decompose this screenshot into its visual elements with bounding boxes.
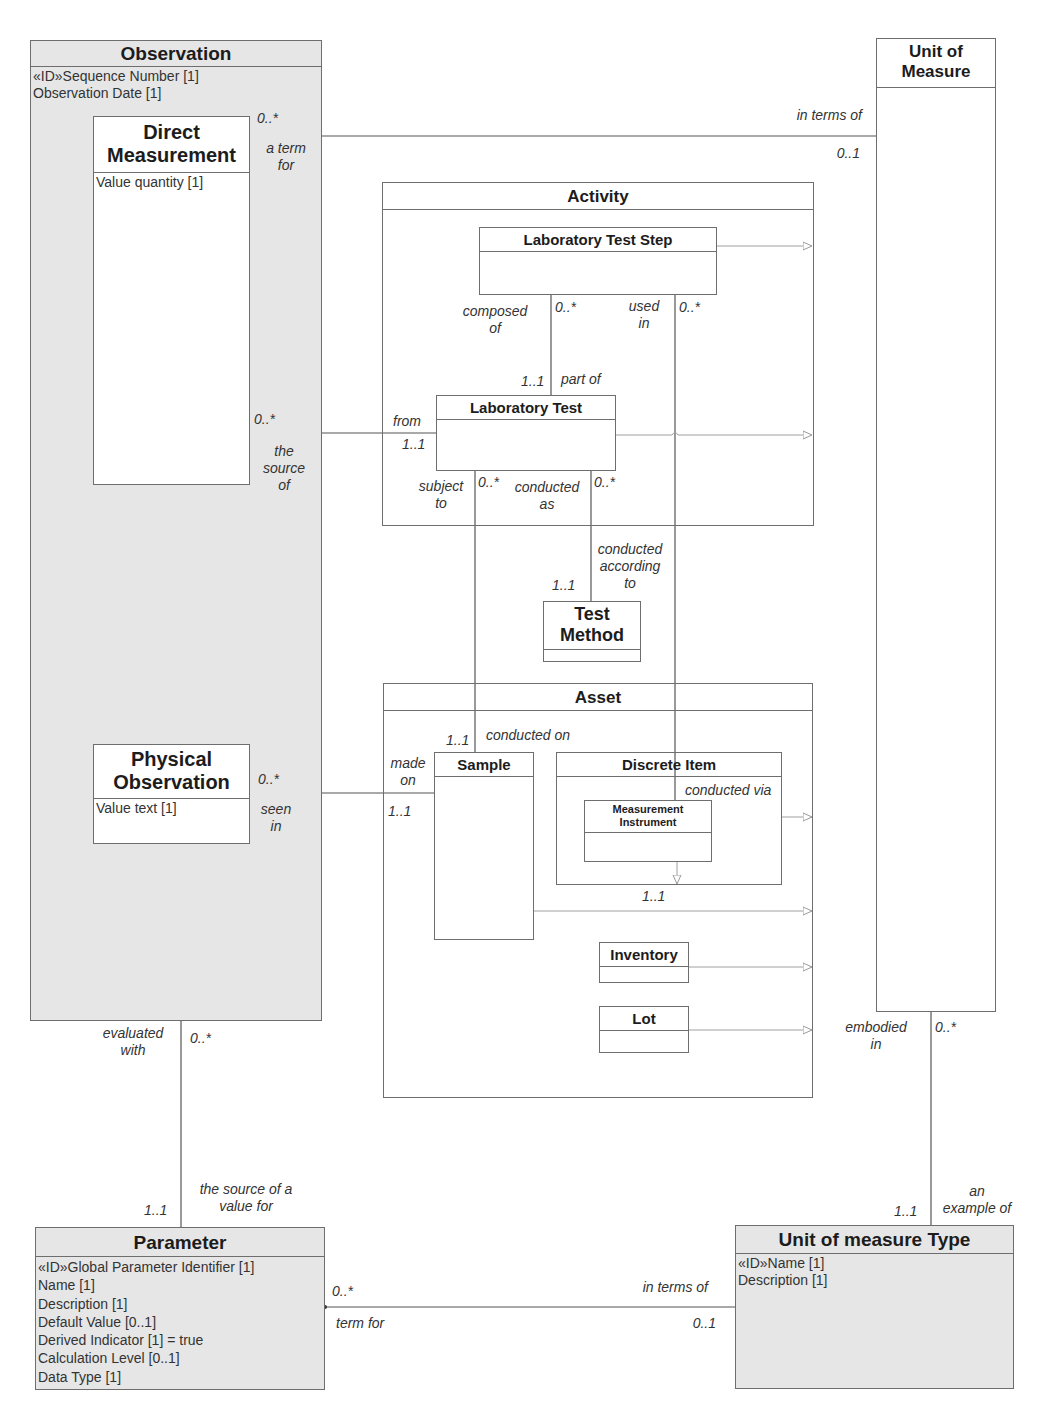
role-text: evaluated (94, 1025, 172, 1042)
class-name: Discrete Item (557, 753, 781, 777)
attribute: Calculation Level [0..1] (38, 1349, 322, 1367)
role-text: according (592, 558, 668, 575)
class-name: Physical (94, 748, 249, 771)
class-lot[interactable]: Lot (599, 1006, 689, 1053)
role-label: from (393, 413, 421, 430)
multiplicity-label: 0..1 (670, 1315, 716, 1332)
class-measurement-instrument[interactable]: Measurement Instrument (584, 800, 712, 862)
attribute: Derived Indicator [1] = true (38, 1331, 322, 1349)
class-direct-measurement[interactable]: Direct Measurement Value quantity [1] (93, 116, 250, 485)
role-label: used in (622, 298, 666, 332)
attribute: Default Value [0..1] (38, 1313, 322, 1331)
class-unit-of-measure[interactable]: Unit of Measure (876, 38, 996, 1012)
class-observation-name: Observation (31, 41, 321, 67)
role-text: composed (458, 303, 532, 320)
role-text: embodied (838, 1019, 914, 1036)
role-label: the source of (256, 443, 312, 494)
class-physical-observation[interactable]: Physical Observation Value text [1] (93, 744, 250, 844)
class-measurement-instrument-header: Measurement Instrument (585, 801, 711, 833)
attribute: Name [1] (38, 1276, 322, 1294)
class-inventory[interactable]: Inventory (599, 942, 689, 983)
attribute: Description [1] (38, 1295, 322, 1313)
multiplicity-label: 0..* (258, 771, 279, 788)
class-name: Unit of (877, 42, 995, 62)
package-activity-name: Activity (383, 183, 813, 210)
class-name: Method (544, 625, 640, 646)
class-parameter[interactable]: Parameter «ID»Global Parameter Identifie… (35, 1227, 325, 1390)
class-name: Measure (877, 62, 995, 82)
multiplicity-label: 1..1 (388, 803, 411, 820)
multiplicity-label: 0..* (332, 1283, 353, 1300)
role-text: on (386, 772, 430, 789)
class-laboratory-test-step[interactable]: Laboratory Test Step (479, 227, 717, 295)
role-label: part of (561, 371, 601, 388)
class-name: Laboratory Test (437, 396, 615, 420)
role-label: evaluated with (94, 1025, 172, 1059)
class-sample[interactable]: Sample (434, 752, 534, 940)
role-label: a term for (262, 140, 310, 174)
role-text: as (508, 496, 586, 513)
role-text: to (592, 575, 668, 592)
class-parameter-name: Parameter (36, 1228, 324, 1257)
role-label: term for (336, 1315, 384, 1332)
attribute: Observation Date [1] (33, 85, 319, 102)
multiplicity-label: 0..* (555, 299, 576, 316)
role-label: subject to (414, 478, 468, 512)
role-label: conducted as (508, 479, 586, 513)
role-label: in terms of (610, 1279, 708, 1296)
class-name: Instrument (585, 816, 711, 829)
role-label: the source of a value for (190, 1181, 302, 1215)
attribute: «ID»Global Parameter Identifier [1] (38, 1258, 322, 1276)
multiplicity-label: 1..1 (521, 373, 544, 390)
class-unit-of-measure-type[interactable]: Unit of measure Type «ID»Name [1] Descri… (735, 1225, 1014, 1389)
class-name: Test (544, 604, 640, 625)
multiplicity-label: 0..* (254, 411, 275, 428)
role-text: with (94, 1042, 172, 1059)
multiplicity-label: 0..1 (820, 145, 860, 162)
role-text: example of (934, 1200, 1020, 1217)
role-text: in (254, 818, 298, 835)
role-text: for (262, 157, 310, 174)
role-text: used (622, 298, 666, 315)
class-unit-of-measure-header: Unit of Measure (877, 39, 995, 88)
class-test-method-header: Test Method (544, 602, 640, 650)
multiplicity-label: 1..1 (402, 436, 425, 453)
role-text: source (256, 460, 312, 477)
multiplicity-label: 0..* (679, 299, 700, 316)
attribute: «ID»Sequence Number [1] (33, 68, 319, 85)
class-parameter-attributes: «ID»Global Parameter Identifier [1] Name… (36, 1257, 324, 1387)
class-name: Lot (600, 1007, 688, 1031)
class-direct-measurement-header: Direct Measurement (94, 117, 249, 173)
multiplicity-label: 0..* (594, 474, 615, 491)
class-name: Measurement (94, 144, 249, 167)
attribute: Description [1] (738, 1272, 1011, 1289)
role-label: seen in (254, 801, 298, 835)
attribute: Value text [1] (96, 800, 247, 817)
multiplicity-label: 1..1 (446, 732, 469, 749)
multiplicity-label: 1..1 (894, 1203, 917, 1220)
class-unit-of-measure-type-attributes: «ID»Name [1] Description [1] (736, 1254, 1013, 1290)
role-text: an (934, 1183, 1020, 1200)
class-direct-measurement-attributes: Value quantity [1] (94, 173, 249, 192)
multiplicity-label: 1..1 (552, 577, 575, 594)
multiplicity-label: 0..* (478, 474, 499, 491)
role-text: subject (414, 478, 468, 495)
multiplicity-label: 0..* (257, 110, 278, 127)
role-label: in terms of (760, 107, 862, 124)
class-name: Sample (435, 753, 533, 777)
role-label: embodied in (838, 1019, 914, 1053)
class-test-method[interactable]: Test Method (543, 601, 641, 662)
class-name: Direct (94, 121, 249, 144)
role-label: conducted via (685, 782, 771, 799)
attribute: Value quantity [1] (96, 174, 247, 191)
role-text: conducted (592, 541, 668, 558)
role-label: an example of (934, 1183, 1020, 1217)
role-text: seen (254, 801, 298, 818)
role-text: the (256, 443, 312, 460)
class-laboratory-test[interactable]: Laboratory Test (436, 395, 616, 471)
role-text: in (838, 1036, 914, 1053)
attribute: Data Type [1] (38, 1368, 322, 1386)
role-text: to (414, 495, 468, 512)
class-physical-observation-attributes: Value text [1] (94, 799, 249, 818)
class-unit-of-measure-type-name: Unit of measure Type (736, 1226, 1013, 1254)
